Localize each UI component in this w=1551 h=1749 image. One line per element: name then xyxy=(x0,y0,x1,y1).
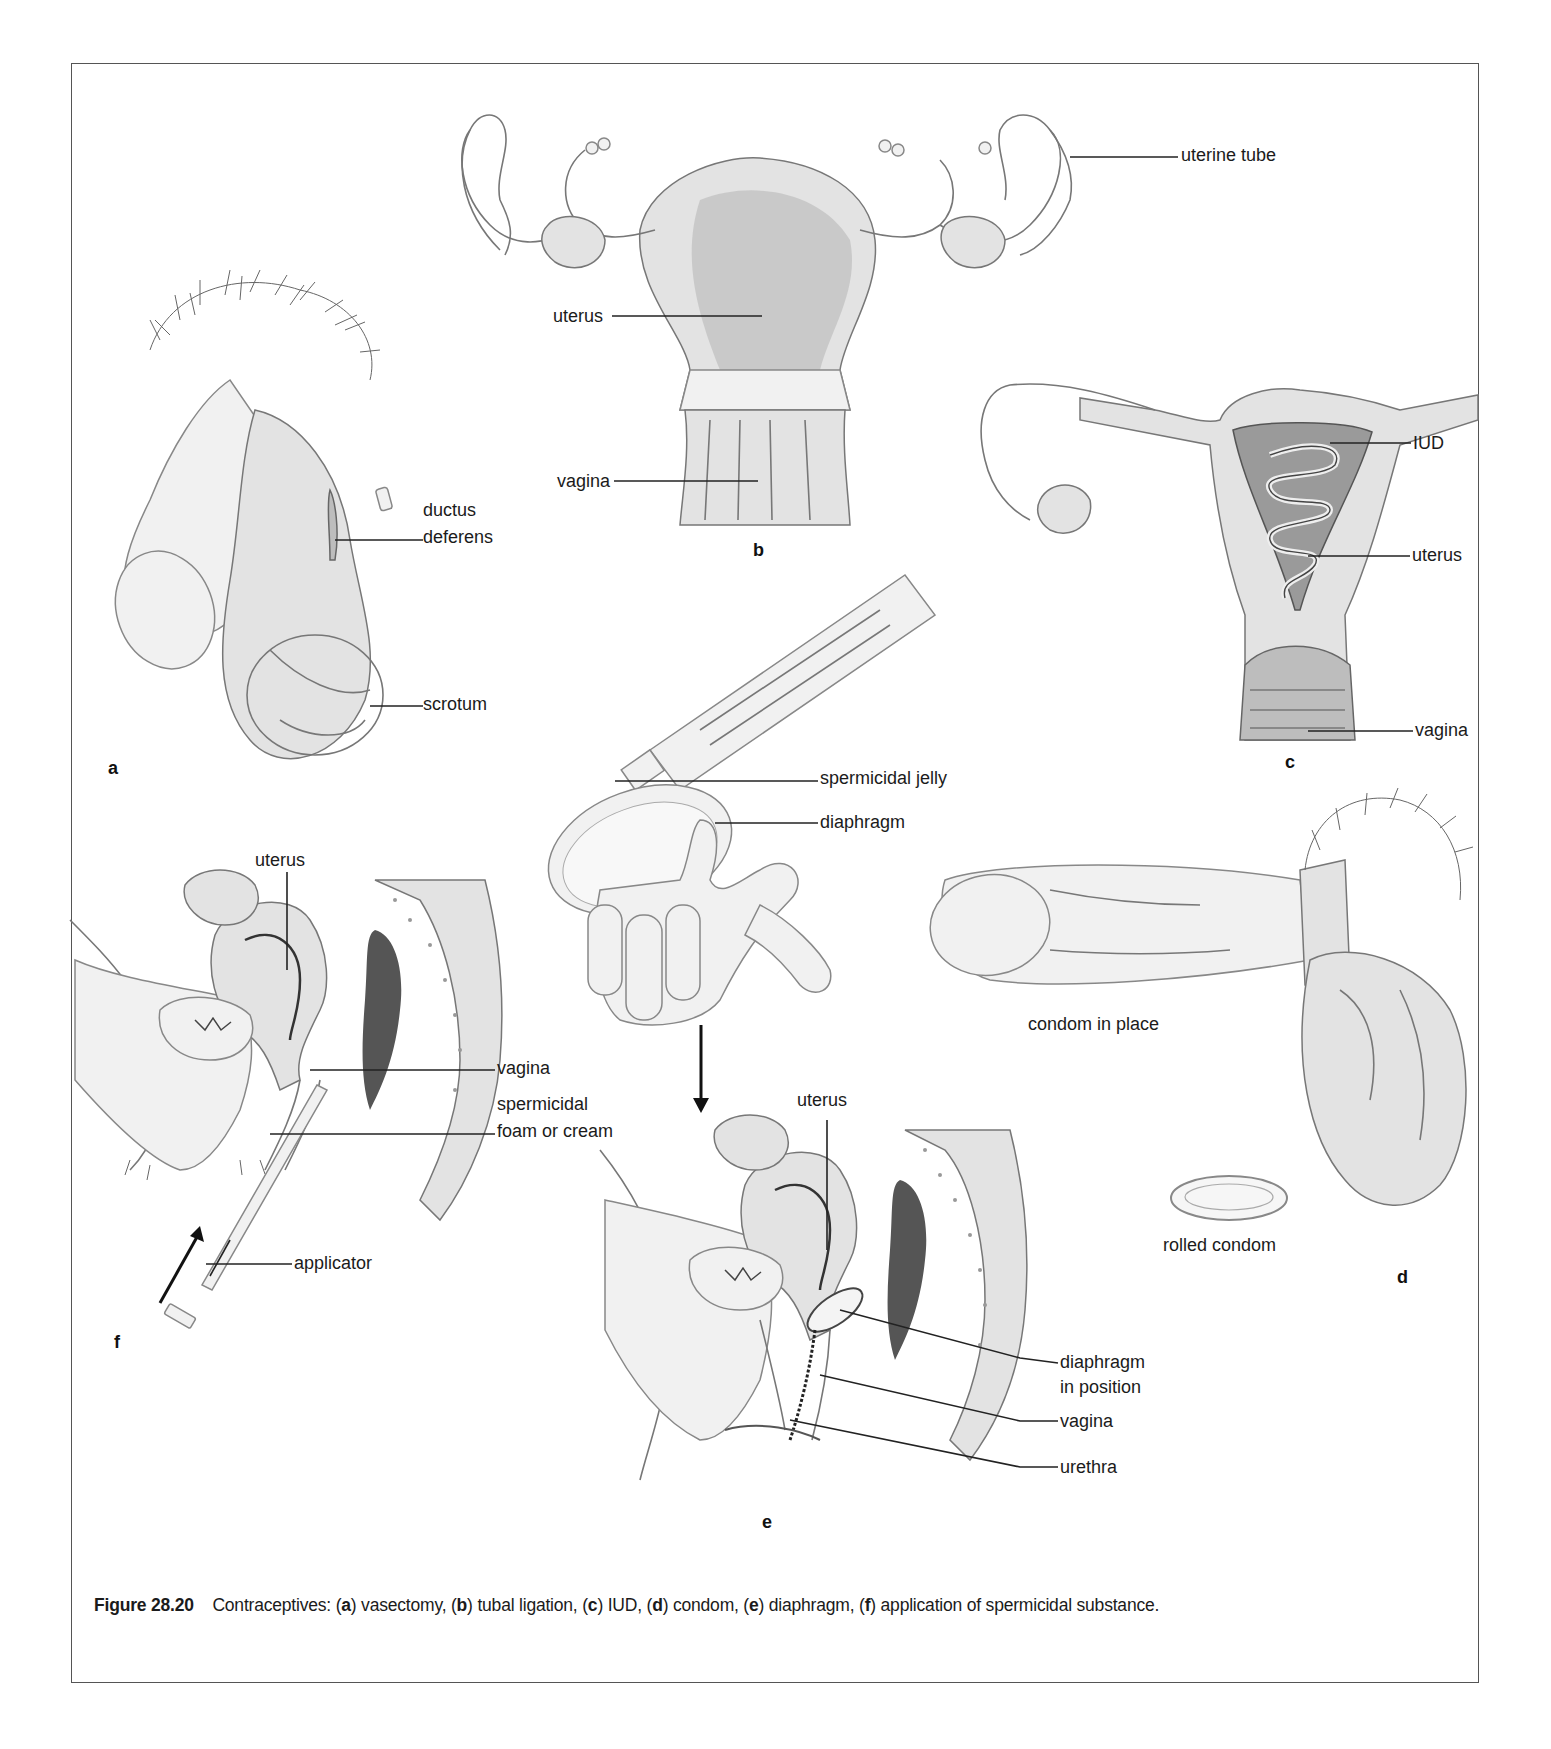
panel-letter-b: b xyxy=(753,540,764,561)
caption-panel-ref: c xyxy=(588,1595,598,1615)
panel-letter-d: d xyxy=(1397,1267,1408,1288)
panel-f-illustration xyxy=(70,870,502,1329)
panel-e-hand-illustration xyxy=(530,575,935,1113)
label-diaphragm-in-position-1: diaphragm xyxy=(1060,1352,1145,1372)
caption-fragment: ) tubal ligation, ( xyxy=(467,1595,588,1615)
caption-fragment: ) application of spermicidal substance. xyxy=(870,1595,1159,1615)
caption-fragment: ) diaphragm, ( xyxy=(759,1595,865,1615)
label-vagina-c: vagina xyxy=(1415,720,1468,740)
label-spermicidal-jelly: spermicidal jelly xyxy=(820,768,947,788)
panel-letter-a: a xyxy=(108,758,118,779)
label-condom-in-place: condom in place xyxy=(1028,1014,1159,1034)
label-uterus-e: uterus xyxy=(797,1090,847,1110)
label-urethra: urethra xyxy=(1060,1457,1117,1477)
figure-caption: Figure 28.20 Contraceptives: (a) vasecto… xyxy=(94,1591,1224,1620)
panel-letter-c: c xyxy=(1285,752,1295,773)
panel-e-sagittal-illustration xyxy=(600,1115,1058,1480)
label-uterine-tube: uterine tube xyxy=(1181,145,1276,165)
label-deferens: deferens xyxy=(423,527,493,547)
label-uterus-c: uterus xyxy=(1412,545,1462,565)
caption-panel-ref: b xyxy=(457,1595,468,1615)
panel-c-illustration xyxy=(981,384,1478,740)
label-diaphragm: diaphragm xyxy=(820,812,905,832)
caption-fragment: ) vasectomy, ( xyxy=(351,1595,457,1615)
panel-letter-e: e xyxy=(762,1512,772,1533)
label-scrotum: scrotum xyxy=(423,694,487,714)
label-foam-or-cream: foam or cream xyxy=(497,1121,613,1141)
label-vagina-e: vagina xyxy=(1060,1411,1113,1431)
label-uterus-f: uterus xyxy=(255,850,305,870)
figure-number: Figure 28.20 xyxy=(94,1595,194,1615)
panel-a-illustration xyxy=(99,270,423,759)
caption-panel-ref: a xyxy=(341,1595,351,1615)
caption-fragment: ) IUD, ( xyxy=(597,1595,652,1615)
label-vagina-f: vagina xyxy=(497,1058,550,1078)
caption-panel-ref: e xyxy=(749,1595,759,1615)
panel-letter-f: f xyxy=(114,1332,120,1353)
label-ductus: ductus xyxy=(423,500,476,520)
label-spermicidal: spermicidal xyxy=(497,1094,588,1114)
anatomical-illustrations xyxy=(0,0,1551,1749)
label-diaphragm-in-position-2: in position xyxy=(1060,1377,1141,1397)
label-vagina-b: vagina xyxy=(557,471,610,491)
caption-fragment: Contraceptives: ( xyxy=(212,1595,341,1615)
label-rolled-condom: rolled condom xyxy=(1163,1235,1276,1255)
caption-panel-ref: d xyxy=(652,1595,663,1615)
label-applicator: applicator xyxy=(294,1253,372,1273)
label-uterus-b: uterus xyxy=(553,306,603,326)
caption-text: Contraceptives: (a) vasectomy, (b) tubal… xyxy=(212,1595,1159,1615)
caption-fragment: ) condom, ( xyxy=(663,1595,749,1615)
label-iud: IUD xyxy=(1413,433,1444,453)
